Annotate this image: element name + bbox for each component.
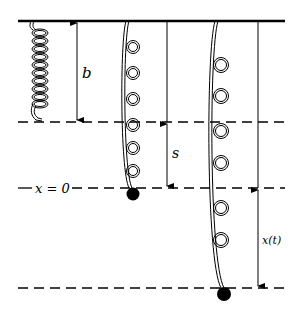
moving-mass	[217, 287, 231, 301]
label-b: b	[82, 64, 92, 82]
label-s: s	[172, 145, 179, 161]
equilibrium-spring	[122, 21, 140, 188]
label-x-t: x(t)	[262, 234, 281, 247]
spring-diagram: b s x = 0 x(t)	[0, 0, 299, 313]
moving-spring	[209, 21, 229, 288]
unstretched-spring	[30, 21, 48, 121]
label-x-zero: x = 0	[35, 181, 70, 196]
equilibrium-mass	[127, 188, 140, 201]
